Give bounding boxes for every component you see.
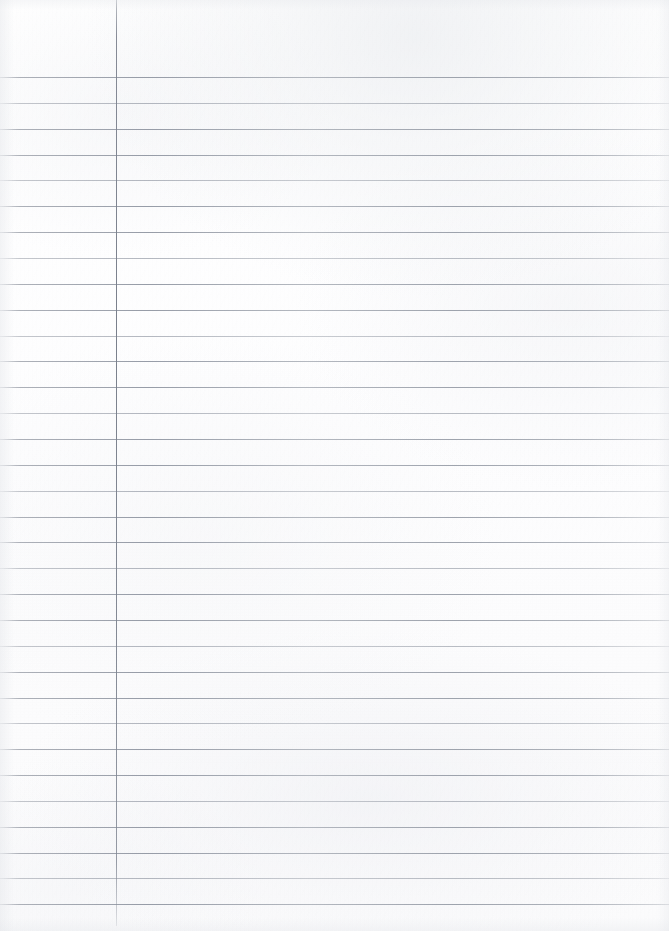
rule-line [0, 439, 669, 440]
rule-line [0, 749, 669, 750]
rule-line [0, 387, 669, 388]
scanned-page [0, 0, 669, 931]
rule-line [0, 206, 669, 207]
rule-line [0, 232, 669, 233]
rule-line [0, 542, 669, 543]
rule-line [0, 801, 669, 802]
rule-line [0, 361, 669, 362]
rule-line [0, 155, 669, 156]
rule-line [0, 775, 669, 776]
rule-line [0, 310, 669, 311]
rule-line [0, 336, 669, 337]
rule-line [0, 517, 669, 518]
rule-line [0, 284, 669, 285]
rule-line [0, 465, 669, 466]
rule-line [0, 129, 669, 130]
rule-line [0, 77, 669, 78]
rule-line [0, 853, 669, 854]
vertical-margin-rule [116, 0, 117, 926]
rule-line [0, 413, 669, 414]
rule-line [0, 904, 669, 905]
rule-line [0, 698, 669, 699]
rule-line [0, 103, 669, 104]
rule-line [0, 672, 669, 673]
rule-line [0, 491, 669, 492]
rule-line [0, 723, 669, 724]
rule-line [0, 827, 669, 828]
rule-line [0, 594, 669, 595]
rule-line [0, 258, 669, 259]
rule-line [0, 568, 669, 569]
rule-line [0, 878, 669, 879]
rule-line [0, 180, 669, 181]
rule-line [0, 620, 669, 621]
rule-line [0, 646, 669, 647]
